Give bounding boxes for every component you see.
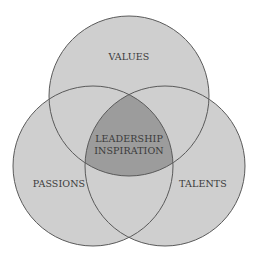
venn-diagram: VALUES PASSIONS TALENTS LEADERSHIP INSPI… [0, 0, 259, 264]
label-passions: PASSIONS [33, 178, 85, 189]
label-values: VALUES [108, 51, 150, 62]
label-inspiration: INSPIRATION [94, 145, 164, 156]
label-talents: TALENTS [179, 178, 227, 189]
label-leadership: LEADERSHIP [95, 133, 163, 144]
